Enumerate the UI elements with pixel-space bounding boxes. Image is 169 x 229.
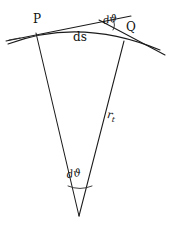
label-arc-length-ds: ds — [73, 31, 87, 43]
label-angle-dtheta-bottom: dϑ — [66, 167, 81, 179]
radius-to-p — [36, 33, 79, 216]
curvature-diagram: P Q ds dϑ dϑ rt — [0, 0, 169, 229]
label-point-q: Q — [126, 21, 136, 33]
radius-to-q — [79, 41, 124, 216]
label-point-p: P — [33, 13, 41, 25]
label-angle-dtheta-top: dϑ — [102, 13, 118, 26]
